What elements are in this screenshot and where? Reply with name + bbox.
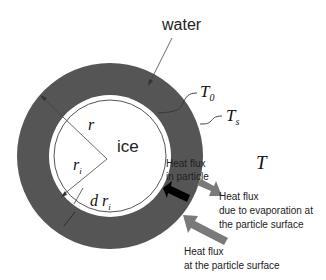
flux-particle-text-1: Heat flux <box>166 158 205 169</box>
Ts-label: Ts <box>226 106 239 127</box>
water-pointer <box>150 38 172 82</box>
water-label: water <box>161 16 202 33</box>
flux-evap-text-1: Heat flux <box>219 191 258 202</box>
flux-evap-text-3: the particle surface <box>219 219 304 230</box>
r-label: r <box>88 116 95 133</box>
flux-surface-text-1: Heat flux <box>184 246 223 257</box>
ice-particle-diagram: water T0 Ts T r ice ri d ri Heat flux in… <box>0 0 326 280</box>
T0-label: T0 <box>200 82 214 103</box>
flux-evap-text-2: due to evaporation at <box>219 205 313 216</box>
ice-label: ice <box>117 137 139 156</box>
ice-core <box>54 100 166 212</box>
Ts-pointer <box>200 116 222 124</box>
flux-surface-text-2: at the particle surface <box>184 260 280 271</box>
ambient-T-label: T <box>256 152 268 173</box>
